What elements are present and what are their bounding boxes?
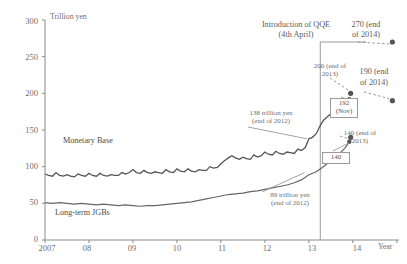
x-tick-label-2007: 2007: [30, 244, 64, 253]
x-tick-label-08: 08: [76, 244, 98, 253]
y-tick-label-0: 0: [12, 235, 38, 244]
y-axis-title: Trillion yen: [50, 13, 87, 21]
series-label-long-term-jgbs: Long-term JGBs: [55, 209, 110, 218]
leader-200: [330, 78, 349, 90]
leader-138: [248, 127, 307, 139]
jgb-190-label-line2: of 2014): [349, 79, 399, 88]
y-tick-label-250: 250: [12, 53, 38, 62]
y-tick-label-100: 100: [12, 162, 38, 171]
x-tick-label-10: 10: [166, 244, 188, 253]
mb-270-label-line1: 270 (end: [340, 21, 392, 30]
x-axis-title: Year: [378, 243, 392, 251]
mb-box-month: (Nov): [333, 108, 355, 116]
mb-270-label-line2: of 2014): [340, 31, 392, 40]
mb-138-label-line2: (end of 2012): [235, 118, 307, 126]
y-tick-label-50: 50: [12, 198, 38, 207]
x-tick-label-12: 12: [256, 244, 278, 253]
mb-2014-projection: [390, 39, 395, 44]
y-tick-label-150: 150: [12, 126, 38, 135]
monetary-base-actual-box: 192 (Nov): [330, 98, 358, 118]
x-tick-label-13: 13: [301, 244, 323, 253]
jgb-actual-box: 140: [322, 152, 350, 164]
x-tick-label-09: 09: [121, 244, 143, 253]
series-label-monetary-base: Monetary Base: [63, 137, 113, 146]
mb-2013-projection: [348, 91, 353, 96]
jgb-box-value: 140: [325, 154, 347, 162]
leader-190: [364, 92, 389, 99]
chart-container: Trillion yen Year 300 250 200 150 100 50…: [0, 0, 407, 264]
y-tick-label-300: 300: [12, 17, 38, 26]
x-tick-label-11: 11: [211, 244, 233, 253]
mb-200-label-line2: 2013): [308, 71, 352, 79]
jgb-89-label-line2: (end of 2012): [255, 200, 325, 208]
y-tick-label-200: 200: [12, 89, 38, 98]
jgb-190-label-line1: 190 (end: [349, 68, 399, 77]
leader-89: [262, 173, 304, 192]
jgb-140-label-line2: 2013): [337, 138, 383, 146]
x-tick-label-14: 14: [346, 244, 368, 253]
jgb-2014-projection: [390, 98, 395, 103]
